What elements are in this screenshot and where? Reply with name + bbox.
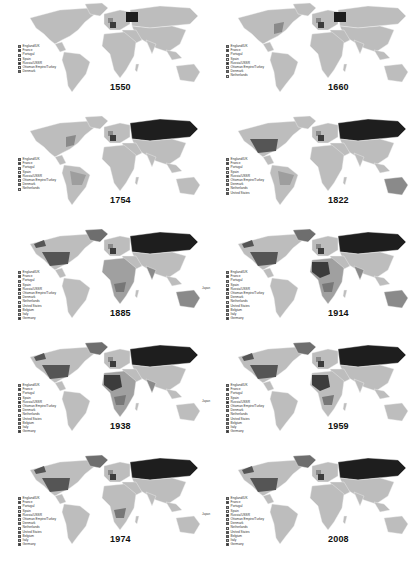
legend-swatch bbox=[226, 535, 229, 538]
region-europe bbox=[104, 349, 130, 369]
region-southAmerica bbox=[62, 52, 90, 92]
region-seAsia bbox=[374, 163, 390, 173]
legend-label: Germany bbox=[23, 430, 36, 434]
legend-swatch bbox=[226, 317, 229, 320]
legend-swatch bbox=[18, 527, 21, 530]
legend-swatch bbox=[18, 49, 21, 52]
legend-swatch bbox=[226, 393, 229, 396]
legend-item: Germany bbox=[18, 430, 56, 434]
legend-swatch bbox=[18, 543, 21, 546]
region-france bbox=[318, 22, 324, 28]
region-europe bbox=[104, 462, 130, 482]
region-france bbox=[318, 135, 324, 141]
legend-swatch bbox=[18, 430, 21, 433]
legend-swatch bbox=[18, 506, 21, 509]
legend-swatch bbox=[226, 309, 229, 312]
region-europe bbox=[312, 462, 338, 482]
legend-swatch bbox=[18, 284, 21, 287]
legend-swatch bbox=[226, 62, 229, 65]
legend-swatch bbox=[18, 535, 21, 538]
region-africa bbox=[102, 145, 136, 191]
legend-swatch bbox=[226, 522, 229, 525]
region-madagascar bbox=[135, 177, 139, 185]
legend-swatch bbox=[226, 192, 229, 195]
legend-swatch bbox=[18, 518, 21, 521]
legend-swatch bbox=[226, 543, 229, 546]
region-australia bbox=[176, 290, 200, 308]
region-france bbox=[318, 474, 324, 480]
legend-item: Germany bbox=[18, 543, 56, 547]
legend-label: United States bbox=[231, 192, 250, 196]
legend-label: Germany bbox=[231, 543, 244, 547]
legend-swatch bbox=[18, 62, 21, 65]
region-centralAm bbox=[263, 381, 274, 391]
legend-swatch bbox=[18, 409, 21, 412]
region-madagascar bbox=[343, 516, 347, 524]
region-southAmerica bbox=[270, 504, 298, 544]
map-panel-1754: England/UK France Portugal Spain Russia/… bbox=[0, 113, 208, 226]
legend-swatch bbox=[226, 527, 229, 530]
legend-swatch bbox=[18, 418, 21, 421]
legend-swatch bbox=[18, 426, 21, 429]
region-france bbox=[110, 22, 116, 28]
region-europe bbox=[104, 236, 130, 256]
region-madagascar bbox=[135, 290, 139, 298]
legend-swatch bbox=[226, 305, 229, 308]
year-label: 1754 bbox=[110, 195, 131, 205]
region-centralAm bbox=[55, 155, 66, 165]
legend-swatch bbox=[226, 275, 229, 278]
region-northAmerica bbox=[238, 8, 303, 44]
region-united-states bbox=[250, 365, 278, 379]
legend-swatch bbox=[226, 510, 229, 513]
legend-item: Netherlands bbox=[18, 187, 56, 191]
region-russia bbox=[130, 345, 198, 367]
region-france bbox=[110, 474, 116, 480]
legend-swatch bbox=[226, 188, 229, 191]
region-centralAm bbox=[55, 381, 66, 391]
region-africa bbox=[310, 32, 344, 78]
legend: England/UK France Portugal Spain Russia/… bbox=[18, 45, 56, 74]
region-russia-core bbox=[334, 12, 346, 22]
region-northAmerica bbox=[30, 121, 95, 157]
legend-item: Germany bbox=[226, 317, 264, 321]
legend-swatch bbox=[226, 418, 229, 421]
legend-swatch bbox=[226, 401, 229, 404]
map-panel-1974: England/UK France Portugal Spain Russia/… bbox=[0, 452, 208, 565]
legend: England/UK France Portugal Spain Russia/… bbox=[18, 497, 56, 547]
legend-swatch bbox=[18, 501, 21, 504]
year-label: 1914 bbox=[328, 308, 349, 318]
legend-swatch bbox=[18, 539, 21, 542]
legend-swatch bbox=[226, 531, 229, 534]
legend-swatch bbox=[226, 167, 229, 170]
legend-swatch bbox=[18, 188, 21, 191]
region-united-states bbox=[42, 478, 70, 492]
legend-swatch bbox=[226, 66, 229, 69]
region-russia bbox=[130, 232, 198, 254]
legend-swatch bbox=[18, 271, 21, 274]
legend-swatch bbox=[18, 167, 21, 170]
region-russia bbox=[130, 119, 198, 141]
legend-swatch bbox=[226, 430, 229, 433]
year-label: 1660 bbox=[328, 82, 349, 92]
legend-swatch bbox=[226, 414, 229, 417]
legend-swatch bbox=[226, 292, 229, 295]
region-madagascar bbox=[343, 403, 347, 411]
legend-swatch bbox=[226, 179, 229, 182]
region-united-states bbox=[42, 365, 70, 379]
legend-label: Germany bbox=[23, 317, 36, 321]
legend-swatch bbox=[18, 171, 21, 174]
legend-swatch bbox=[226, 183, 229, 186]
region-australia bbox=[176, 516, 200, 534]
legend-swatch bbox=[18, 384, 21, 387]
region-australia bbox=[176, 64, 200, 82]
region-centralAm bbox=[263, 155, 274, 165]
legend-swatch bbox=[18, 388, 21, 391]
legend-swatch bbox=[18, 522, 21, 525]
region-africa bbox=[310, 145, 344, 191]
region-australia bbox=[384, 290, 408, 308]
year-label: 1959 bbox=[328, 421, 349, 431]
region-united-states bbox=[250, 252, 278, 266]
region-france bbox=[318, 361, 324, 367]
region-seAsia bbox=[166, 276, 182, 286]
region-europe bbox=[312, 123, 338, 143]
